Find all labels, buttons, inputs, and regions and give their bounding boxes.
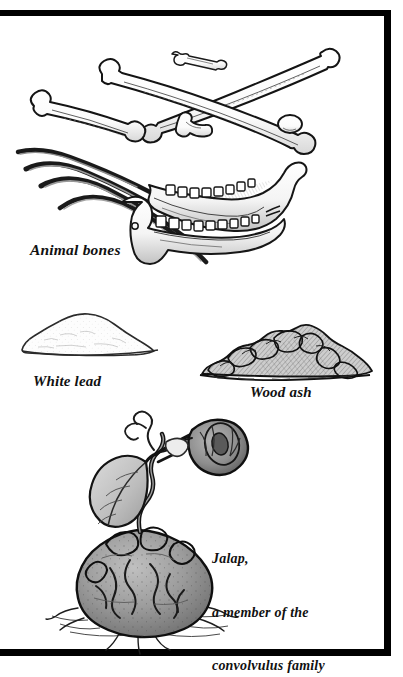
tuber-root bbox=[77, 527, 213, 637]
wood-ash-illustration bbox=[198, 316, 373, 388]
caption-jalap: Jalap, a member of the convolvulus famil… bbox=[212, 514, 325, 677]
small-bone-icon bbox=[172, 52, 227, 70]
short-femur-left bbox=[31, 90, 146, 141]
caption-jalap-line-1: Jalap, bbox=[212, 550, 325, 568]
caption-white-lead: White lead bbox=[33, 372, 101, 391]
caption-wood-ash: Wood ash bbox=[250, 383, 312, 402]
illustration-plate: Animal bones bbox=[0, 16, 384, 649]
heart-shaped-leaf bbox=[90, 454, 156, 527]
caption-animal-bones: Animal bones bbox=[30, 240, 121, 260]
caption-jalap-line-3: convolvulus family bbox=[212, 657, 325, 675]
caption-jalap-line-2: a member of the bbox=[212, 604, 325, 622]
page-frame-right-rule bbox=[384, 10, 391, 656]
tendril bbox=[125, 412, 154, 451]
animal-bones-illustration bbox=[4, 30, 364, 245]
white-lead-illustration bbox=[16, 302, 166, 364]
bud bbox=[166, 438, 188, 456]
